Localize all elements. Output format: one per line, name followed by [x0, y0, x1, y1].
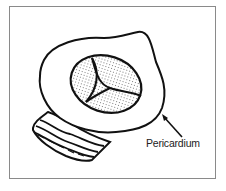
pericardium-arrow	[162, 114, 182, 137]
pericardium-label: Pericardium	[146, 137, 200, 149]
valve-illustration	[0, 0, 226, 191]
